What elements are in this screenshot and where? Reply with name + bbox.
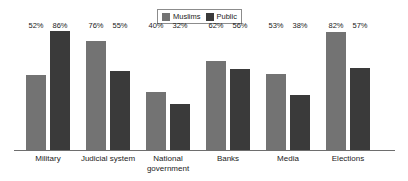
bar-wrapper: 57%	[350, 31, 370, 150]
bar-group: 40%32%	[138, 31, 198, 150]
plot-area: 52%86%Military76%55%Judicial system40%32…	[0, 0, 408, 181]
category-label: Elections	[305, 154, 391, 164]
bar-wrapper: 56%	[230, 31, 250, 150]
bar: 62%	[206, 61, 226, 150]
bar: 55%	[110, 71, 130, 150]
bar: 38%	[290, 95, 310, 150]
bar-value-label: 57%	[352, 22, 367, 30]
bar: 82%	[326, 32, 346, 150]
bar: 56%	[230, 69, 250, 150]
bar: 76%	[86, 41, 106, 150]
bar-value-label: 82%	[328, 22, 343, 30]
bar: 52%	[26, 75, 46, 150]
bar-group: 76%55%	[78, 31, 138, 150]
bar-wrapper: 76%	[86, 31, 106, 150]
bar-wrapper: 52%	[26, 31, 46, 150]
bar-wrapper: 82%	[326, 31, 346, 150]
bar: 57%	[350, 68, 370, 150]
bar: 32%	[170, 104, 190, 150]
bar: 53%	[266, 74, 286, 150]
bar-wrapper: 38%	[290, 31, 310, 150]
bar-group: 52%86%	[18, 31, 78, 150]
bar-group: 53%38%	[258, 31, 318, 150]
bar-value-label: 56%	[232, 22, 247, 30]
bar-chart: Muslims Public 52%86%Military76%55%Judic…	[0, 0, 408, 181]
bar-value-label: 62%	[208, 22, 223, 30]
bar-group: 62%56%	[198, 31, 258, 150]
bar-value-label: 76%	[88, 22, 103, 30]
bar-value-label: 55%	[112, 22, 127, 30]
x-axis-baseline	[14, 150, 395, 151]
bar-wrapper: 40%	[146, 31, 166, 150]
bar-wrapper: 53%	[266, 31, 286, 150]
bar: 86%	[50, 31, 70, 150]
bar-value-label: 38%	[292, 22, 307, 30]
bar-value-label: 40%	[148, 22, 163, 30]
bar-wrapper: 62%	[206, 31, 226, 150]
bar-wrapper: 32%	[170, 31, 190, 150]
bar-group: 82%57%	[318, 31, 378, 150]
bar-value-label: 53%	[268, 22, 283, 30]
bar-wrapper: 86%	[50, 31, 70, 150]
bar-value-label: 86%	[52, 22, 67, 30]
bar: 40%	[146, 92, 166, 150]
bar-wrapper: 55%	[110, 31, 130, 150]
bar-value-label: 52%	[28, 22, 43, 30]
bar-value-label: 32%	[172, 22, 187, 30]
